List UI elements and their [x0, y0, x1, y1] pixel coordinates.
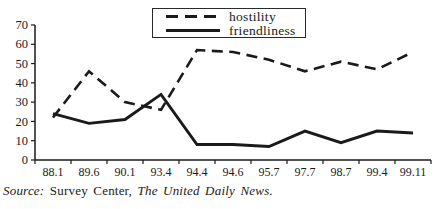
y-tick-label: 40 [16, 76, 29, 90]
legend-item-hostility: hostility [166, 10, 305, 24]
friendliness-line [53, 94, 413, 146]
x-tick-label: 94.6 [223, 165, 244, 179]
hostility-line [53, 50, 413, 118]
source-note: Source: Survey Center, The United Daily … [3, 183, 439, 199]
friendliness-line-sample-icon [166, 29, 220, 32]
legend-label-friendliness: friendliness [229, 24, 296, 38]
y-tick-label: 10 [16, 134, 29, 148]
y-tick-label: 20 [16, 115, 29, 129]
x-tick-label: 90.1 [115, 165, 136, 179]
x-tick-label: 89.6 [79, 165, 100, 179]
x-tick-label: 97.7 [295, 165, 316, 179]
source-prefix: Source: [3, 183, 44, 198]
x-tick-label: 94.4 [187, 165, 208, 179]
source-publication: The United Daily News. [138, 183, 273, 198]
legend-item-friendliness: friendliness [166, 24, 305, 38]
y-tick-label: 70 [16, 18, 29, 32]
source-org: Survey Center, [44, 183, 137, 198]
x-tick-label: 93.4 [151, 165, 172, 179]
y-tick-label: 50 [16, 57, 29, 71]
legend-label-hostility: hostility [229, 10, 276, 24]
y-tick-label: 60 [16, 37, 29, 51]
x-tick-label: 88.1 [43, 165, 64, 179]
x-tick-label: 99.11 [400, 165, 427, 179]
y-tick-label: 0 [22, 153, 28, 167]
y-tick-label: 30 [16, 95, 29, 109]
x-tick-label: 95.7 [259, 165, 280, 179]
x-tick-label: 98.7 [331, 165, 352, 179]
figure: 01020304050607088.189.690.193.494.494.69… [0, 0, 442, 209]
legend: hostility friendliness [152, 8, 306, 38]
hostility-line-sample-icon [166, 15, 220, 18]
x-tick-label: 99.4 [367, 165, 388, 179]
